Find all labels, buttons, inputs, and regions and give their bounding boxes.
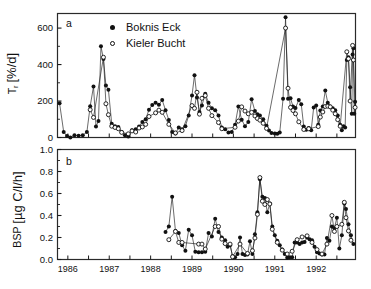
y-tick-label: 0 [12,132,53,143]
y-tick-label: 200 [12,95,53,106]
figure-root: Tr [%/d] a Boknis Eck Kieler Bucht BSP [… [0,0,371,289]
y-tick-label: 0.6 [12,188,53,199]
panel-b: BSP [µg C/l/h] b [0,0,371,289]
x-tick-label: 1992 [293,264,339,274]
x-tick-label: 1986 [45,264,91,274]
y-tick-label: 1.0 [12,144,53,155]
x-tick-label: 1990 [210,264,256,274]
y-tick-label: 600 [12,22,53,33]
y-tick-label: 0.4 [12,210,53,221]
panel-b-plot [0,0,371,289]
y-tick-label: 400 [12,59,53,70]
x-tick-label: 1991 [252,264,298,274]
x-tick-label: 1988 [128,264,174,274]
x-tick-label: 1989 [169,264,215,274]
x-tick-label: 1987 [86,264,132,274]
y-tick-label: 0.2 [12,232,53,243]
y-tick-label: 0.8 [12,166,53,177]
